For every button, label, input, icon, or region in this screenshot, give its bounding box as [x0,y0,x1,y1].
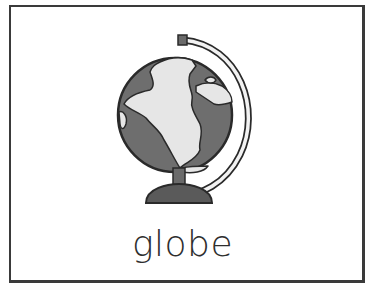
flashcard-word: globe [0,222,365,266]
